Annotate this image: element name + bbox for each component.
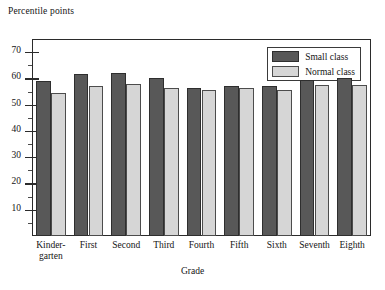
y-tick-label: 60 xyxy=(0,71,21,81)
bar-normal-class xyxy=(352,85,367,236)
y-tick-mark xyxy=(25,131,32,132)
x-tick-label: Kinder-garten xyxy=(32,240,70,262)
y-tick-mark xyxy=(25,78,32,79)
bars-layer xyxy=(32,39,371,236)
bar-small-class xyxy=(224,86,239,236)
y-axis-title: Percentile points xyxy=(8,6,74,16)
bar-normal-class xyxy=(202,90,217,236)
bar-small-class xyxy=(187,88,202,236)
chart-figure: Percentile points 10203040506070 Small c… xyxy=(0,0,385,290)
bar-normal-class xyxy=(51,93,66,236)
x-tick-label: Fourth xyxy=(183,240,221,251)
bar-group xyxy=(145,39,183,236)
bar-normal-class xyxy=(89,86,104,236)
y-axis-ticks: 10203040506070 xyxy=(0,39,32,236)
bar-small-class xyxy=(111,73,126,236)
y-tick-mark xyxy=(25,52,32,53)
x-tick-label: Sixth xyxy=(258,240,296,251)
bar-small-class xyxy=(74,74,89,236)
bar-small-class xyxy=(262,86,277,236)
y-tick-mark xyxy=(25,157,32,158)
y-tick-label: 70 xyxy=(0,45,21,55)
y-tick-label: 40 xyxy=(0,124,21,134)
bar-normal-class xyxy=(239,88,254,236)
bar-small-class xyxy=(300,80,315,236)
x-tick-label: Eighth xyxy=(333,240,371,251)
y-tick-label: 10 xyxy=(0,203,21,213)
x-tick-label: Seventh xyxy=(296,240,334,251)
bar-small-class xyxy=(149,78,164,236)
bar-normal-class xyxy=(164,88,179,236)
y-tick-mark xyxy=(25,210,32,211)
y-tick-mark xyxy=(25,105,32,106)
bar-group xyxy=(107,39,145,236)
x-tick-label: Third xyxy=(145,240,183,251)
bar-group xyxy=(70,39,108,236)
bar-group xyxy=(220,39,258,236)
x-tick-label: Fifth xyxy=(220,240,258,251)
y-tick-label: 20 xyxy=(0,176,21,186)
bar-group xyxy=(296,39,334,236)
bar-group xyxy=(333,39,371,236)
y-tick-label: 50 xyxy=(0,98,21,108)
bar-group xyxy=(32,39,70,236)
bar-small-class xyxy=(36,81,51,236)
x-axis-title: Grade xyxy=(0,266,385,276)
bar-normal-class xyxy=(126,84,141,236)
bar-group xyxy=(258,39,296,236)
x-tick-label: First xyxy=(70,240,108,251)
x-tick-label: Second xyxy=(107,240,145,251)
bar-normal-class xyxy=(315,85,330,236)
bar-group xyxy=(183,39,221,236)
y-tick-label: 30 xyxy=(0,150,21,160)
bar-small-class xyxy=(337,78,352,236)
y-tick-mark xyxy=(25,183,32,184)
bar-normal-class xyxy=(277,90,292,236)
